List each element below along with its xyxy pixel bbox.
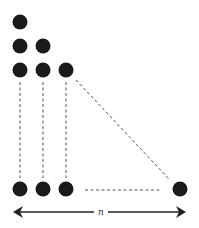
dash-layer [20, 80, 170, 190]
dot-col2-row2 [36, 39, 51, 54]
base-dot-final [173, 182, 188, 197]
dot-col1-row1 [13, 63, 28, 78]
base-length-label: n [98, 207, 104, 217]
dot-col1-row2 [13, 39, 28, 54]
dot-col3-row1 [59, 63, 74, 78]
diagonal-dashed-line [76, 80, 170, 180]
dot-col2-row1 [36, 63, 51, 78]
base-dot-col2 [36, 182, 51, 197]
base-dot-col3 [59, 182, 74, 197]
base-arrow: n [13, 206, 186, 218]
triangle-dot-diagram: n [0, 0, 199, 228]
dot-col1-row3 [13, 15, 28, 30]
base-dot-col1 [13, 182, 28, 197]
